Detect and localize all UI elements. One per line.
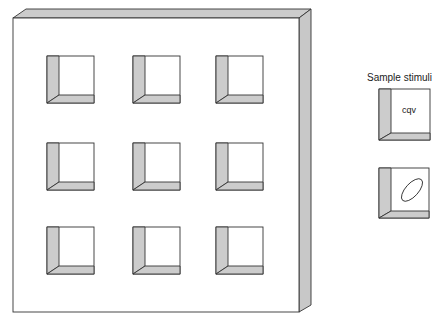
board-right-edge: [299, 9, 311, 312]
board-window: [216, 143, 263, 190]
board-window: [216, 227, 263, 274]
sample-stimulus-ellipse-window: [379, 168, 429, 218]
board-window: [47, 143, 94, 190]
sample-stimulus-text: cqv: [402, 105, 416, 115]
window-grid: [47, 56, 263, 274]
stimulus-board-diagram: [0, 0, 437, 321]
board-window: [133, 227, 180, 274]
sample-stimuli-title: Sample stimuli: [367, 72, 432, 83]
board-window: [47, 56, 94, 103]
board-top-edge: [13, 9, 311, 18]
board-window: [216, 56, 263, 103]
board-window: [133, 56, 180, 103]
board-window: [133, 143, 180, 190]
board-window: [47, 227, 94, 274]
